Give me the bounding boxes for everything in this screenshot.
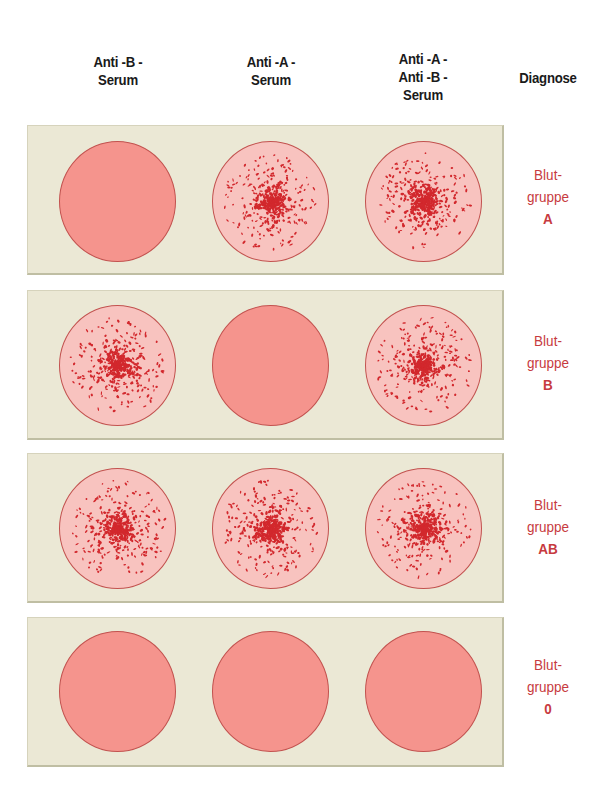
diagnosis-line1: Blut-	[514, 494, 582, 516]
diagnosis-group: 0	[514, 698, 582, 720]
test-card-row-3	[27, 453, 504, 603]
header-anti-b-serum: Anti -B - Serum	[74, 53, 162, 89]
diagnosis-line1: Blut-	[514, 164, 582, 186]
diagnosis-line2: gruppe	[514, 676, 582, 698]
well-anti-ab-no-agglutination	[365, 631, 482, 752]
header-diagnosis: Diagnose	[513, 69, 583, 87]
well-anti-ab-agglutination	[365, 468, 482, 589]
well-anti-a-no-agglutination	[212, 631, 329, 752]
agglutination-clumps-icon	[366, 142, 482, 262]
test-card-row-2	[27, 290, 504, 440]
header-anti-ab-line2: Anti -B -	[379, 68, 467, 86]
well-anti-b-agglutination	[59, 305, 176, 426]
well-anti-ab-agglutination	[365, 141, 482, 262]
diagnosis-line1: Blut-	[514, 330, 582, 352]
well-anti-a-agglutination	[212, 468, 329, 589]
diagnosis-group: B	[514, 374, 582, 396]
header-anti-a-line2: Serum	[227, 71, 315, 89]
diagnosis-row-1: Blut- gruppe A	[514, 164, 582, 230]
agglutination-clumps-icon	[60, 306, 176, 426]
well-anti-b-no-agglutination	[59, 141, 176, 262]
header-anti-a-serum: Anti -A - Serum	[227, 53, 315, 89]
diagnosis-line2: gruppe	[514, 516, 582, 538]
header-anti-ab-line1: Anti -A -	[379, 50, 467, 68]
diagnosis-row-4: Blut- gruppe 0	[514, 654, 582, 720]
agglutination-clumps-icon	[366, 306, 482, 426]
header-diagnosis-label: Diagnose	[513, 69, 583, 87]
header-anti-ab-serum: Anti -A - Anti -B - Serum	[379, 50, 467, 104]
agglutination-clumps-icon	[60, 469, 176, 589]
diagnosis-group: AB	[514, 538, 582, 560]
agglutination-clumps-icon	[213, 469, 329, 589]
test-card-row-1	[27, 125, 504, 275]
well-anti-ab-agglutination	[365, 305, 482, 426]
header-anti-ab-line3: Serum	[379, 86, 467, 104]
header-anti-b-line2: Serum	[74, 71, 162, 89]
test-card-row-4	[27, 617, 504, 767]
diagnosis-row-3: Blut- gruppe AB	[514, 494, 582, 560]
agglutination-clumps-icon	[366, 469, 482, 589]
well-anti-b-no-agglutination	[59, 631, 176, 752]
header-anti-b-line1: Anti -B -	[74, 53, 162, 71]
well-anti-a-no-agglutination	[212, 305, 329, 426]
agglutination-clumps-icon	[213, 142, 329, 262]
diagnosis-line2: gruppe	[514, 352, 582, 374]
diagnosis-line1: Blut-	[514, 654, 582, 676]
well-anti-b-agglutination	[59, 468, 176, 589]
diagnosis-line2: gruppe	[514, 186, 582, 208]
header-anti-a-line1: Anti -A -	[227, 53, 315, 71]
diagnosis-group: A	[514, 208, 582, 230]
diagnosis-row-2: Blut- gruppe B	[514, 330, 582, 396]
well-anti-a-agglutination	[212, 141, 329, 262]
